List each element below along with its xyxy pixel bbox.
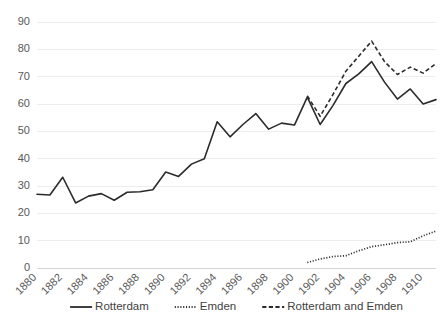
y-axis-tick-label: 90: [18, 15, 30, 27]
y-axis-tick-label: 70: [18, 70, 30, 82]
legend-item-rotterdam[interactable]: Rotterdam: [70, 300, 149, 312]
data-series: [37, 41, 436, 262]
y-axis-tick-label: 30: [18, 179, 30, 191]
x-axis-tick-label: 1910: [399, 271, 425, 297]
y-axis-tick-label: 50: [18, 124, 30, 136]
y-axis-tick-label: 10: [18, 234, 30, 246]
chart-legend: RotterdamEmdenRotterdam and Emden: [70, 300, 403, 312]
x-axis-tick-label: 1882: [38, 271, 64, 297]
series-line-rotterdam-and-emden: [307, 41, 436, 116]
x-axis-tick-label: 1900: [270, 271, 296, 297]
x-axis-tick-label: 1896: [219, 271, 245, 297]
chart-container: 0102030405060708090 18801882188418861888…: [0, 0, 447, 327]
legend-label: Rotterdam: [95, 300, 149, 312]
x-axis-tick-label: 1886: [90, 271, 116, 297]
x-axis-tick-labels: 1880188218841886188818901892189418961898…: [13, 271, 425, 297]
legend-label: Emden: [200, 300, 236, 312]
gridlines: [37, 22, 436, 268]
line-chart: 0102030405060708090 18801882188418861888…: [0, 0, 447, 327]
y-axis-tick-labels: 0102030405060708090: [18, 15, 30, 273]
x-axis-tick-label: 1894: [193, 271, 219, 297]
y-axis-tick-label: 20: [18, 206, 30, 218]
legend-item-emden[interactable]: Emden: [175, 300, 236, 312]
x-axis-tick-label: 1898: [244, 271, 270, 297]
y-axis-tick-label: 40: [18, 152, 30, 164]
x-axis-tick-label: 1902: [296, 271, 322, 297]
y-axis-tick-label: 80: [18, 42, 30, 54]
x-axis-tick-label: 1908: [373, 271, 399, 297]
x-axis-tick-label: 1906: [347, 271, 373, 297]
x-axis-tick-label: 1880: [13, 271, 39, 297]
x-axis-tick-label: 1904: [322, 271, 348, 297]
x-axis-tick-label: 1888: [116, 271, 142, 297]
legend-item-rotterdam-and-emden[interactable]: Rotterdam and Emden: [262, 300, 403, 312]
x-axis-tick-label: 1884: [64, 271, 90, 297]
x-axis-tick-label: 1890: [141, 271, 167, 297]
legend-label: Rotterdam and Emden: [287, 300, 403, 312]
y-axis-tick-label: 60: [18, 97, 30, 109]
x-axis-tick-label: 1892: [167, 271, 193, 297]
series-line-rotterdam: [37, 62, 436, 203]
series-line-emden: [307, 231, 436, 262]
